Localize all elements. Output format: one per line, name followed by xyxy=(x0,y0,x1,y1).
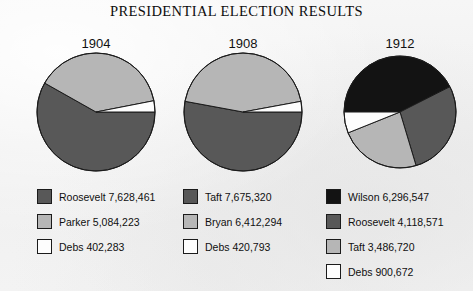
legend-swatch-debs-icon xyxy=(326,264,341,279)
year-label-1912: 1912 xyxy=(304,36,473,51)
chart-canvas: PRESIDENTIAL ELECTION RESULTS 1904 Roose… xyxy=(0,0,473,291)
legend-label: Taft 3,486,720 xyxy=(348,241,415,253)
pie-svg-1912 xyxy=(342,54,458,170)
legend-swatch-taft-icon xyxy=(326,239,341,254)
legend-item-1912-debs: Debs 900,672 xyxy=(326,259,444,284)
legend-item-1912-wilson: Wilson 6,296,547 xyxy=(326,184,444,209)
legend-swatch-wilson-icon xyxy=(326,189,341,204)
legend-item-1912-taft: Taft 3,486,720 xyxy=(326,234,444,259)
election-panel-1912: 1912 Wilson 6,296,547Roosevelt 4,118,571… xyxy=(0,0,473,291)
legend-label: Roosevelt 4,118,571 xyxy=(348,216,444,228)
legend-1912: Wilson 6,296,547Roosevelt 4,118,571Taft … xyxy=(326,184,444,284)
pie-chart-1912 xyxy=(342,54,458,170)
legend-label: Debs 900,672 xyxy=(348,266,413,278)
legend-item-1912-roosevelt: Roosevelt 4,118,571 xyxy=(326,209,444,234)
legend-label: Wilson 6,296,547 xyxy=(348,191,429,203)
legend-swatch-roosevelt-icon xyxy=(326,214,341,229)
